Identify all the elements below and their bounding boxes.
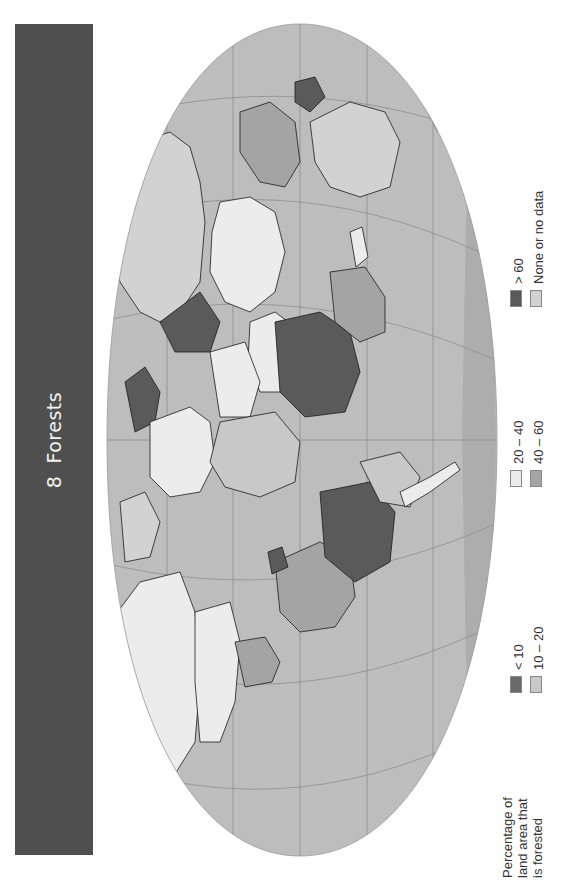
legend-swatch-40-60 <box>530 470 542 487</box>
legend-swatch-gt60 <box>510 290 522 307</box>
alaska <box>120 787 160 842</box>
legend-title: Percentage of land area that is forested <box>500 797 545 878</box>
legend-label-lt10: < 10 <box>511 644 526 670</box>
world-forest-map <box>100 22 500 858</box>
canada <box>110 572 200 782</box>
legend-title-line: is forested <box>530 797 545 878</box>
legend-label-20-40: 20 – 40 <box>511 421 526 464</box>
legend-label-10-20: 10 – 20 <box>531 627 546 670</box>
page-title: 8Forests <box>43 392 65 488</box>
chapter-number: 8 <box>43 476 65 489</box>
legend-title-line: land area that <box>515 797 530 878</box>
legend-label-gt60: > 60 <box>511 258 526 284</box>
legend-swatch-10-20 <box>530 676 542 693</box>
legend-label-no-data: None or no data <box>531 191 546 284</box>
chapter-title: Forests <box>43 392 65 464</box>
legend-swatch-no-data <box>530 290 542 307</box>
legend-swatch-lt10 <box>510 676 522 693</box>
legend-swatch-20-40 <box>510 470 522 487</box>
antarctica <box>462 112 496 792</box>
legend-label-40-60: 40 – 60 <box>531 421 546 464</box>
legend-title-line: Percentage of <box>500 797 515 878</box>
